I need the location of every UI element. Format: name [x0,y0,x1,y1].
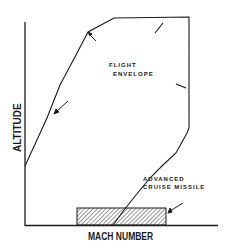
arrow-icon [168,203,183,213]
arrow-icon [176,84,186,88]
flight-envelope-diagram [0,0,228,250]
arrow-icon [88,32,96,41]
envelope-label-line2: ENVELOPE [113,70,154,79]
advanced-cruise-missile-region [77,208,166,225]
arrow-icon [54,101,68,114]
missile-label-line1: ADVANCED [143,175,205,183]
arrow-icon [155,23,163,33]
x-axis-label: MACH NUMBER [88,231,153,242]
y-axis-label: ALTITUDE [12,103,23,152]
flight-envelope-boundary [25,17,189,225]
envelope-label-line1: FLIGHT [109,61,154,70]
missile-label: ADVANCED CRUISE MISSILE [143,175,205,191]
flight-envelope-label: FLIGHT ENVELOPE [109,61,154,79]
missile-label-line2: CRUISE MISSILE [143,183,205,191]
